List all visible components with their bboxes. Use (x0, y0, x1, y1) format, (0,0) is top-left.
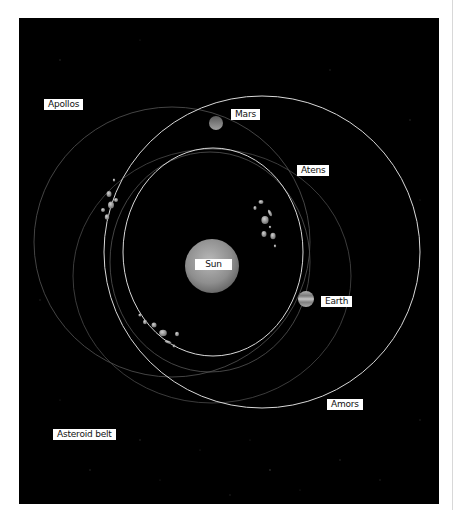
label-amors: Amors (327, 399, 363, 410)
asteroid-orbit-diagram: Apollos Mars Atens Sun Earth Amors Aster… (19, 18, 439, 504)
label-mars: Mars (231, 109, 260, 120)
label-apollos: Apollos (44, 99, 83, 110)
page-edge-rule (452, 0, 453, 510)
asteroid-cluster-right (253, 200, 276, 247)
label-asteroid-belt: Asteroid belt (53, 429, 116, 440)
label-earth: Earth (321, 296, 352, 307)
label-atens: Atens (297, 165, 329, 176)
apollos-orbit (34, 107, 310, 377)
mars-orbit (104, 96, 420, 408)
label-sun: Sun (195, 259, 232, 270)
asteroid-cluster-bottom (138, 313, 179, 347)
mars-icon (209, 116, 223, 130)
earth-icon (298, 291, 314, 307)
